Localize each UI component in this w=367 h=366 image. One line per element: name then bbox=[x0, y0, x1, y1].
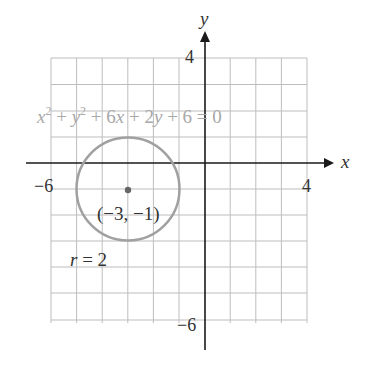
y-axis-label: y bbox=[200, 9, 208, 28]
eq-rest2: + 2 bbox=[124, 106, 154, 127]
y-axis-arrow-icon bbox=[200, 31, 210, 42]
x-axis-arrow-icon bbox=[324, 158, 334, 168]
tick-x-neg6: −6 bbox=[34, 177, 53, 195]
radius-label: r = 2 bbox=[70, 250, 107, 269]
eq-rest1: + 6 bbox=[86, 106, 116, 127]
eq-plus: + bbox=[51, 106, 71, 127]
x-axis-label: x bbox=[341, 152, 349, 171]
eq-x2: x bbox=[116, 106, 124, 127]
center-point bbox=[125, 187, 131, 193]
eq-rest3: + 6 = 0 bbox=[162, 106, 221, 127]
plot-area bbox=[0, 0, 367, 366]
center-label: (−3, −1) bbox=[97, 204, 160, 223]
eq-y: y bbox=[72, 106, 80, 127]
tick-y-neg6: −6 bbox=[177, 316, 196, 334]
tick-y-4: 4 bbox=[185, 48, 194, 66]
radius-value: = 2 bbox=[77, 249, 107, 270]
tick-x-4: 4 bbox=[302, 177, 311, 195]
circle-equation: x2 + y2 + 6x + 2y + 6 = 0 bbox=[37, 105, 222, 126]
